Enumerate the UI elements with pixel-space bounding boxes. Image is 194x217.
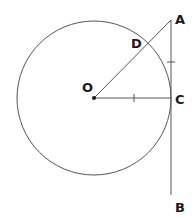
center-point-o	[92, 96, 96, 100]
geometry-diagram: A B C D O	[0, 0, 194, 217]
label-d: D	[131, 36, 142, 51]
label-c: C	[175, 92, 185, 107]
label-o: O	[82, 80, 93, 95]
label-b: B	[175, 200, 185, 215]
label-a: A	[175, 12, 185, 27]
